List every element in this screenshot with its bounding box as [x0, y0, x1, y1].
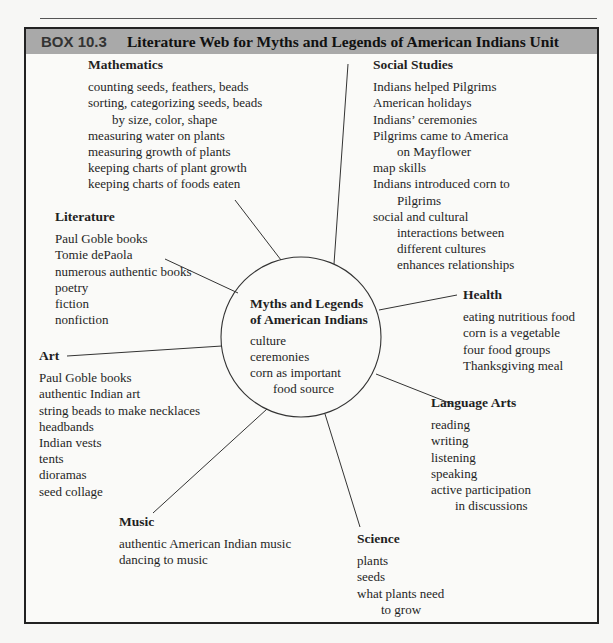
node-heading: Art	[39, 348, 200, 364]
node-item: Tomie dePaola	[55, 247, 191, 263]
node-item: headbands	[39, 419, 200, 435]
node-item: in discussions	[431, 498, 531, 514]
center-heading-line: Myths and Legends	[250, 296, 368, 312]
node-language-arts: Language Arts readingwritinglisteningspe…	[431, 395, 531, 514]
node-item: Indians introduced corn to	[373, 176, 514, 192]
node-item: to grow	[357, 602, 444, 618]
node-music: Music authentic American Indian musicdan…	[119, 514, 291, 569]
node-item: American holidays	[373, 95, 514, 111]
node-item: Pilgrims came to America	[373, 128, 514, 144]
node-item: what plants need	[357, 586, 444, 602]
node-item: authentic Indian art	[39, 386, 200, 402]
node-item: social and cultural	[373, 209, 514, 225]
node-item: counting seeds, feathers, beads	[88, 79, 262, 95]
node-item: Paul Goble books	[39, 370, 200, 386]
node-mathematics: Mathematics counting seeds, feathers, be…	[88, 57, 262, 193]
node-literature: Literature Paul Goble booksTomie dePaola…	[55, 209, 191, 328]
connector-health	[379, 295, 457, 310]
node-item: nonfiction	[55, 312, 191, 328]
node-item: measuring water on plants	[88, 128, 262, 144]
node-item: active participation	[431, 482, 531, 498]
node-item: seeds	[357, 569, 444, 585]
node-item: poetry	[55, 280, 191, 296]
connector-social-studies	[334, 64, 348, 264]
connector-mathematics	[235, 200, 281, 260]
node-item: eating nutritious food	[463, 309, 575, 325]
node-heading: Language Arts	[431, 395, 531, 411]
node-item: authentic American Indian music	[119, 536, 291, 552]
node-art: Art Paul Goble booksauthentic Indian art…	[39, 348, 200, 500]
node-item: dancing to music	[119, 552, 291, 568]
node-item: seed collage	[39, 484, 200, 500]
node-item: dioramas	[39, 467, 200, 483]
node-item: reading	[431, 417, 531, 433]
node-social-studies: Social Studies Indians helped PilgrimsAm…	[373, 57, 514, 274]
node-heading: Music	[119, 514, 291, 530]
node-heading: Literature	[55, 209, 191, 225]
node-item: different cultures	[373, 241, 514, 257]
node-item: enhances relationships	[373, 257, 514, 273]
center-item: corn as important	[250, 365, 368, 381]
node-item: interactions between	[373, 225, 514, 241]
center-heading-line: of American Indians	[250, 312, 368, 328]
center-item: ceremonies	[250, 349, 368, 365]
node-item: Indians’ ceremonies	[373, 112, 514, 128]
node-item: Indians helped Pilgrims	[373, 79, 514, 95]
center-item: culture	[250, 333, 368, 349]
node-heading: Science	[357, 531, 444, 547]
node-item: writing	[431, 433, 531, 449]
node-item: four food groups	[463, 342, 575, 358]
node-item: on Mayflower	[373, 144, 514, 160]
node-item: by size, color, shape	[88, 112, 262, 128]
node-item: plants	[357, 553, 444, 569]
node-item: Pilgrims	[373, 193, 514, 209]
node-item: Paul Goble books	[55, 231, 191, 247]
node-heading: Health	[463, 287, 575, 303]
center-heading: Myths and Legends of American Indians	[250, 296, 368, 328]
node-item: measuring growth of plants	[88, 144, 262, 160]
node-item: fiction	[55, 296, 191, 312]
node-item: numerous authentic books	[55, 264, 191, 280]
node-item: speaking	[431, 466, 531, 482]
node-item: map skills	[373, 160, 514, 176]
node-heading: Social Studies	[373, 57, 514, 73]
node-science: Science plantsseedswhat plants needto gr…	[357, 531, 444, 618]
node-item: string beads to make necklaces	[39, 403, 200, 419]
center-item: food source	[250, 381, 368, 397]
node-heading: Mathematics	[88, 57, 262, 73]
connector-science	[325, 414, 360, 527]
node-item: tents	[39, 451, 200, 467]
center-topic: Myths and Legends of American Indians cu…	[250, 296, 368, 397]
node-item: listening	[431, 450, 531, 466]
node-health: Health eating nutritious foodcorn is a v…	[463, 287, 575, 374]
node-item: sorting, categorizing seeds, beads	[88, 95, 262, 111]
node-item: Thanksgiving meal	[463, 358, 575, 374]
node-item: keeping charts of foods eaten	[88, 176, 262, 192]
node-item: keeping charts of plant growth	[88, 160, 262, 176]
node-item: corn is a vegetable	[463, 325, 575, 341]
node-item: Indian vests	[39, 435, 200, 451]
